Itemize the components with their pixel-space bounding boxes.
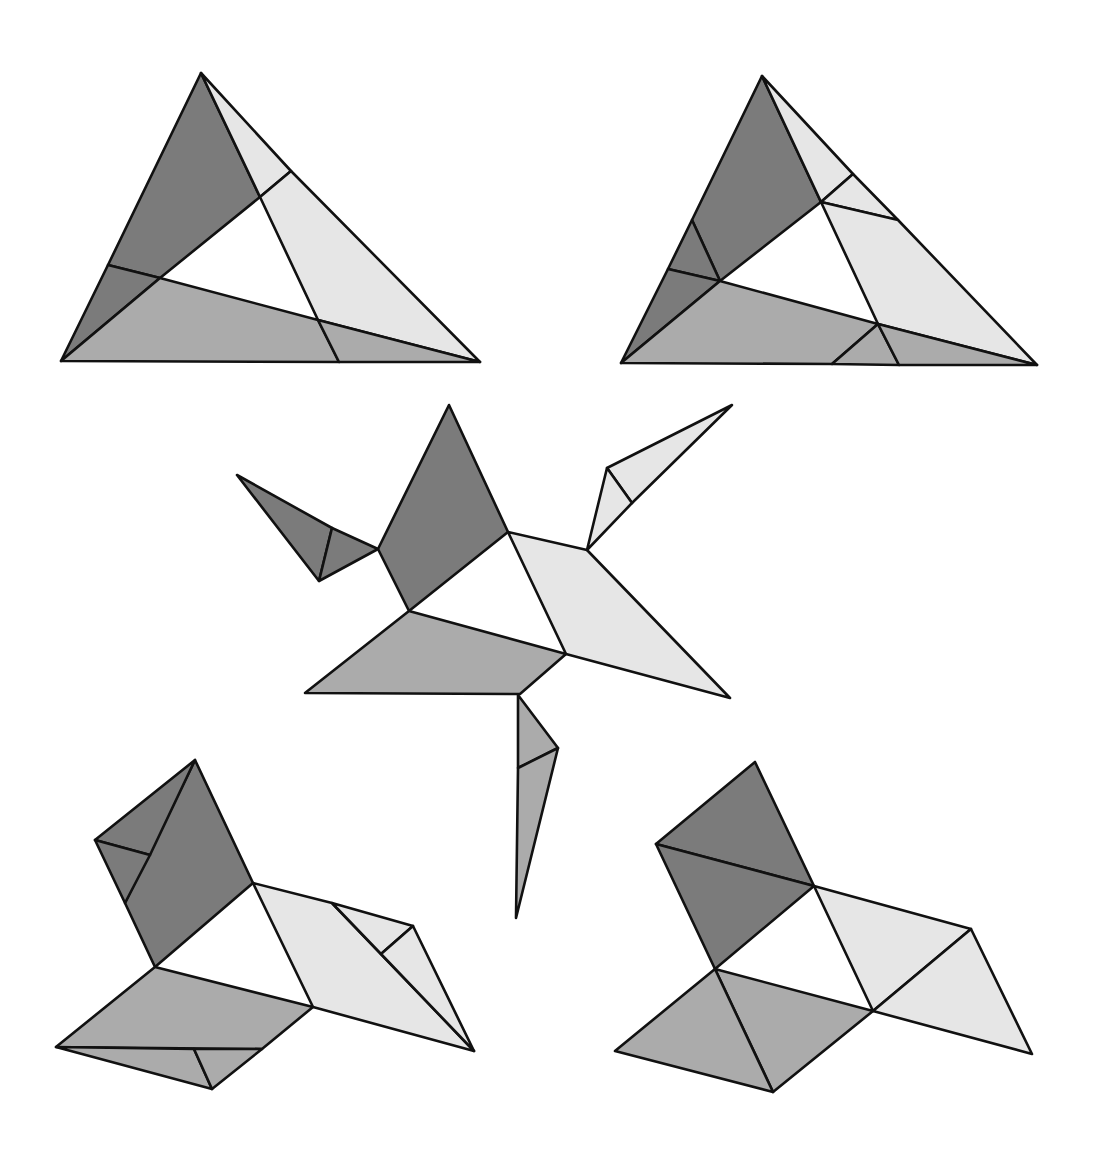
dark-piece (378, 405, 508, 611)
figure-1-triangle (61, 73, 480, 362)
figure-2-triangle (621, 76, 1037, 365)
medium-piece (305, 611, 566, 694)
medium-piece (516, 748, 558, 918)
figure-5-square-arrangement (615, 762, 1032, 1092)
triangle-dissection-diagram (0, 0, 1098, 1169)
medium-piece (56, 967, 313, 1049)
diagram-canvas (0, 0, 1098, 1169)
dark-piece (108, 73, 260, 278)
medium-piece (56, 1047, 212, 1089)
light-piece (607, 405, 732, 503)
dark-piece (237, 475, 332, 581)
dark-piece (692, 76, 821, 281)
figure-4-hinged (56, 760, 474, 1089)
